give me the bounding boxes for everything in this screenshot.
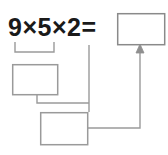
connector-grouping-bracket	[15, 42, 54, 52]
intermediate-box[interactable]	[41, 113, 88, 145]
multiplication-strategy-diagram: 9×5×2=	[0, 0, 168, 155]
connector-intermediate-to-answer	[88, 44, 144, 128]
intermediate-to-answer-path	[88, 50, 140, 128]
partial-product-box[interactable]	[13, 65, 58, 95]
diagram-canvas	[0, 0, 168, 155]
answer-box[interactable]	[118, 14, 165, 45]
connector-partial-to-intermediate	[37, 95, 89, 103]
bracket-under-9-times-5	[15, 42, 54, 52]
partial-product-to-intermediate-path	[37, 95, 89, 103]
